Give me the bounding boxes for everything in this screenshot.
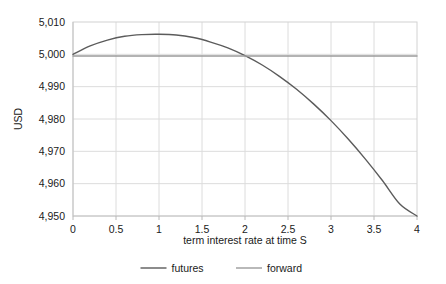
x-tick-label: 0.5 <box>109 223 124 235</box>
chart-legend: futuresforward <box>141 262 303 274</box>
chart-container: 4,9504,9604,9704,9804,9905,0005,010 00.5… <box>0 0 446 284</box>
y-tick-labels: 4,9504,9604,9704,9804,9905,0005,010 <box>39 16 65 222</box>
x-tick-label: 3.5 <box>367 223 382 235</box>
x-tick-label: 4 <box>414 223 420 235</box>
y-tick-label: 4,950 <box>39 210 65 222</box>
x-tick-marks <box>73 216 417 220</box>
y-tick-label: 4,980 <box>39 113 65 125</box>
line-chart: 4,9504,9604,9704,9804,9905,0005,010 00.5… <box>0 0 446 284</box>
y-tick-label: 4,960 <box>39 177 65 189</box>
x-tick-label: 0 <box>70 223 76 235</box>
y-tick-label: 5,010 <box>39 16 65 28</box>
y-tick-label: 4,990 <box>39 80 65 92</box>
legend-label-forward: forward <box>267 262 302 274</box>
y-tick-label: 5,000 <box>39 48 65 60</box>
y-tick-label: 4,970 <box>39 145 65 157</box>
x-axis-title: term interest rate at time S <box>183 234 307 246</box>
x-tick-label: 3 <box>328 223 334 235</box>
legend-label-futures: futures <box>172 262 204 274</box>
y-axis-title: USD <box>12 107 24 130</box>
x-tick-label: 1 <box>156 223 162 235</box>
